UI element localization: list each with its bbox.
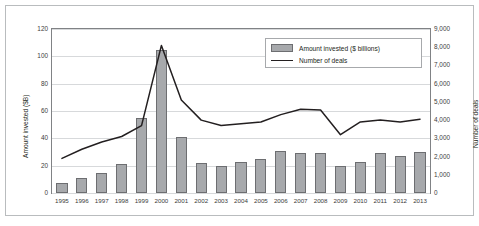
y-axis-left-tick-label: 120: [24, 25, 48, 32]
y-axis-left-tick-label: 40: [24, 134, 48, 141]
y-axis-left-tick-label: 0: [24, 189, 48, 196]
y-axis-left-tick-label: 80: [24, 80, 48, 87]
y-axis-right-tick-label: 1,000: [434, 171, 464, 178]
y-axis-right-tick-label: 7,000: [434, 61, 464, 68]
bar-swatch-icon: [271, 44, 293, 52]
y-axis-left-tick-label: 20: [24, 162, 48, 169]
chart-legend: Amount invested ($ billions) Number of d…: [265, 38, 422, 68]
y-axis-right-tick-label: 3,000: [434, 134, 464, 141]
chart-figure: Amount invested ($B) Number of deals 020…: [0, 0, 479, 226]
y-axis-right-tick-label: 8,000: [434, 43, 464, 50]
y-axis-right-tick-label: 4,000: [434, 116, 464, 123]
line-swatch-icon: [271, 60, 293, 61]
x-axis-tick-label: 2013: [408, 197, 432, 204]
y-axis-right-title: Number of deals: [472, 100, 479, 148]
y-axis-right-tick-label: 6,000: [434, 80, 464, 87]
legend-label-amount-invested: Amount invested ($ billions): [299, 45, 380, 52]
legend-item-number-of-deals: Number of deals: [271, 54, 416, 66]
y-axis-left-title: Amount invested ($B): [22, 95, 29, 158]
y-axis-left-tick-label: 60: [24, 107, 48, 114]
y-axis-right-tick-label: 2,000: [434, 153, 464, 160]
legend-label-number-of-deals: Number of deals: [299, 57, 347, 64]
figure-frame: Amount invested ($B) Number of deals 020…: [5, 5, 474, 216]
legend-item-amount-invested: Amount invested ($ billions): [271, 42, 416, 54]
gridline: [52, 193, 430, 194]
y-axis-right-tick-label: 5,000: [434, 98, 464, 105]
y-axis-right-tick-label: 9,000: [434, 25, 464, 32]
y-axis-right-tick-label: 0: [434, 189, 464, 196]
y-axis-left-tick-label: 100: [24, 52, 48, 59]
